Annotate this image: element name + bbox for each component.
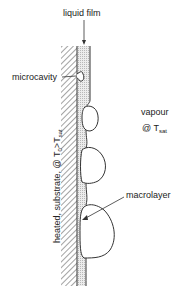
vapour-bubble-large	[80, 205, 114, 258]
vapour-temp-label: @ Tsat	[142, 123, 167, 134]
substrate-label: heated, substrate, @ T0>Tsat	[52, 129, 63, 243]
vapour-bubble-medium	[81, 147, 106, 183]
liquid-film-arrowhead	[82, 40, 86, 45]
heated-substrate	[61, 46, 77, 286]
microcavity-label: microcavity	[12, 72, 58, 82]
vapour-bubble-small	[82, 106, 98, 131]
liquid-film-label: liquid film	[63, 8, 101, 18]
boiling-diagram: liquid film microcavity vapour @ Tsat ma…	[0, 0, 186, 291]
vapour-label: vapour	[141, 107, 169, 117]
macrolayer-label: macrolayer	[126, 190, 171, 200]
